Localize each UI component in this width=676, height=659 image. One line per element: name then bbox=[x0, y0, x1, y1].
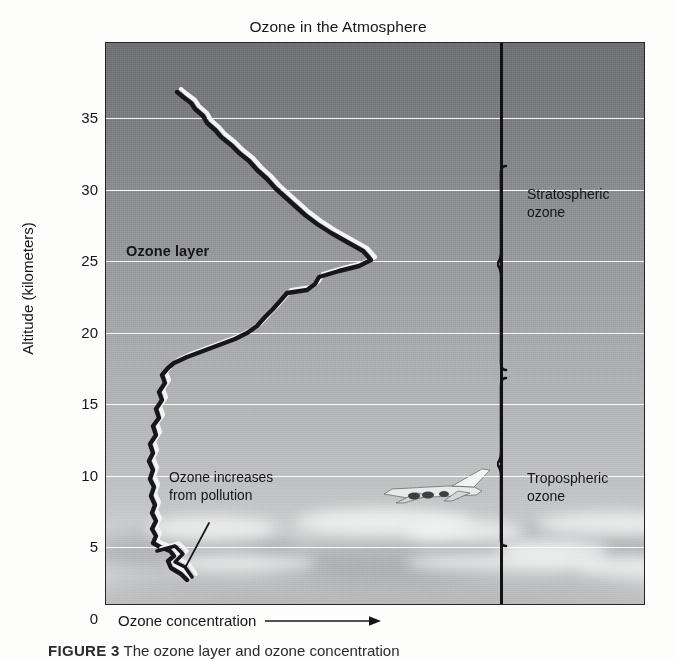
x-axis-title-group: Ozone concentration bbox=[118, 612, 383, 629]
y-tick-25: 25 bbox=[38, 252, 98, 269]
y-tick-15: 15 bbox=[38, 395, 98, 412]
stratospheric-brace-icon bbox=[497, 166, 506, 370]
tropospheric-label-line2: ozone bbox=[527, 488, 608, 506]
plot-area: Ozone layer Ozone increases from polluti… bbox=[105, 42, 645, 605]
figure-caption-label: FIGURE 3 bbox=[48, 642, 120, 659]
stratospheric-label-line2: ozone bbox=[527, 204, 609, 222]
pollution-leader-line bbox=[185, 523, 209, 568]
pollution-annotation-line2: from pollution bbox=[169, 487, 273, 505]
figure-title: Ozone in the Atmosphere bbox=[0, 18, 676, 36]
tropospheric-label-line1: Tropospheric bbox=[527, 470, 608, 488]
ozone-profile-curve bbox=[106, 43, 645, 605]
stratospheric-ozone-label: Stratospheric ozone bbox=[527, 186, 609, 221]
y-tick-30: 30 bbox=[38, 180, 98, 197]
tropospheric-ozone-label: Tropospheric ozone bbox=[527, 470, 608, 505]
pollution-annotation-line1: Ozone increases bbox=[169, 469, 273, 487]
figure-caption: FIGURE 3 The ozone layer and ozone conce… bbox=[48, 642, 668, 659]
y-tick-10: 10 bbox=[38, 466, 98, 483]
x-axis-title: Ozone concentration bbox=[118, 612, 256, 629]
y-axis-title: Altitude (kilometers) bbox=[19, 54, 36, 524]
pollution-annotation: Ozone increases from pollution bbox=[169, 469, 273, 504]
y-tick-35: 35 bbox=[38, 109, 98, 126]
figure-caption-text: The ozone layer and ozone concentration bbox=[123, 642, 399, 659]
y-axis-ticks: 35 30 25 20 15 10 5 0 bbox=[32, 42, 98, 605]
tropospheric-brace-icon bbox=[497, 378, 506, 546]
y-tick-0: 0 bbox=[38, 609, 98, 626]
y-tick-20: 20 bbox=[38, 323, 98, 340]
ozone-layer-annotation: Ozone layer bbox=[126, 243, 209, 259]
y-tick-5: 5 bbox=[38, 538, 98, 555]
right-arrow-icon bbox=[265, 615, 383, 627]
stratospheric-label-line1: Stratospheric bbox=[527, 186, 609, 204]
region-braces bbox=[497, 160, 527, 550]
